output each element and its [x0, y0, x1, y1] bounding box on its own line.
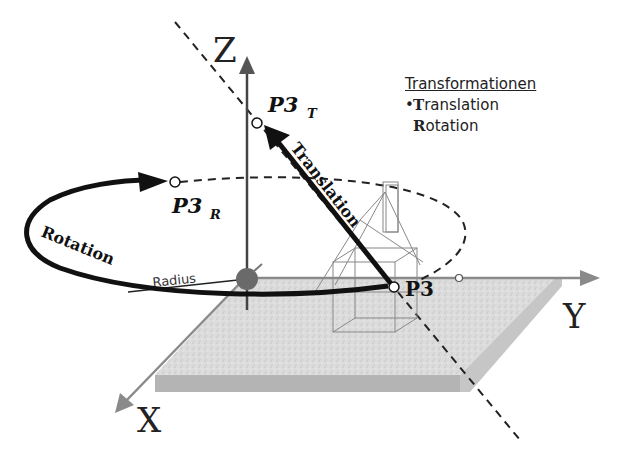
- rotation-arrowhead-icon: [138, 172, 168, 192]
- y-axis-label: Y: [562, 296, 586, 336]
- legend-initial: T: [413, 96, 424, 114]
- translation-label: Translation: [287, 139, 365, 232]
- p3r-label: P3: [171, 193, 202, 218]
- z-axis-label: Z: [213, 30, 237, 70]
- transformations-legend: Transformationen •Translation Rotation: [405, 74, 536, 137]
- p3-label: P3: [405, 277, 434, 301]
- legend-initial: R: [413, 117, 425, 135]
- legend-item-translation: •Translation: [405, 95, 536, 116]
- point-p3: [389, 282, 399, 292]
- transformation-diagram: Radius Rotation Translation P3 T P3 R P3…: [0, 0, 620, 460]
- legend-text: ranslation: [424, 96, 499, 114]
- p3t-label: P3: [267, 92, 298, 117]
- z-axis-arrowhead-icon: [239, 56, 255, 74]
- y-axis-arrowhead-icon: [580, 270, 600, 286]
- point-y-marker: [456, 275, 463, 282]
- point-p3-t: [252, 118, 262, 128]
- legend-title: Transformationen: [405, 74, 536, 95]
- p3t-subscript: T: [307, 106, 318, 121]
- point-p3-r: [170, 177, 180, 187]
- legend-text: otation: [425, 117, 478, 135]
- translation-path: [278, 142, 392, 285]
- legend-bullet: •: [405, 95, 413, 116]
- legend-item-rotation: Rotation: [405, 116, 536, 137]
- p3r-subscript: R: [209, 207, 221, 222]
- x-axis-label: X: [137, 400, 162, 440]
